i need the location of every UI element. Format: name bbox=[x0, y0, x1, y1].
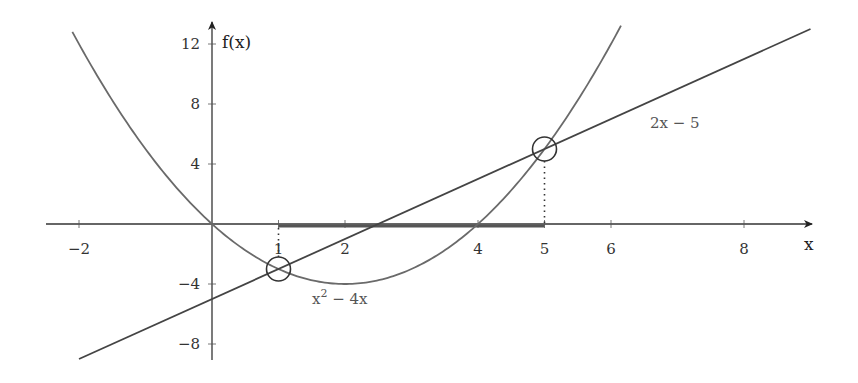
x-tick-label: 6 bbox=[606, 240, 616, 258]
y-axis-label: f(x) bbox=[222, 32, 251, 52]
linear-curve bbox=[79, 29, 811, 359]
y-tick-label: −4 bbox=[178, 275, 200, 293]
x-tick-label: 1 bbox=[274, 240, 284, 258]
x-tick-label: −2 bbox=[68, 240, 90, 258]
parabola-label: x2 − 4x bbox=[312, 287, 368, 308]
x-axis-label: x bbox=[804, 234, 814, 254]
x-tick-label: 8 bbox=[739, 240, 749, 258]
line-label: 2x − 5 bbox=[650, 114, 700, 132]
y-tick-label: 8 bbox=[190, 95, 200, 113]
y-tick-label: 12 bbox=[181, 35, 200, 53]
x-tick-label: 4 bbox=[473, 240, 483, 258]
x-tick-label: 2 bbox=[340, 240, 350, 258]
function-plot: −2124568 1284−4−8 f(x) x x2 − 4x 2x − 5 bbox=[0, 0, 858, 383]
y-tick-label: 4 bbox=[190, 155, 200, 173]
x-tick-label: 5 bbox=[540, 240, 550, 258]
y-tick-label: −8 bbox=[178, 335, 200, 353]
